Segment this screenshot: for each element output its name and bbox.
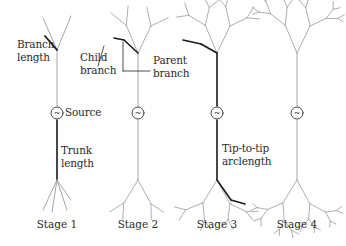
tip-to-tip-arclength-label: Tip-to-tip arclength	[222, 142, 271, 167]
child-branch-label: Child branch	[80, 51, 116, 76]
arclength-path-top	[201, 44, 217, 53]
parent-branch-highlight	[124, 40, 138, 53]
child-branch-highlight	[114, 38, 124, 40]
svg-text:~: ~	[294, 109, 301, 118]
svg-text:~: ~	[214, 109, 221, 118]
source-label: Source	[65, 106, 101, 119]
parent-branch-label: Parent branch	[153, 54, 189, 79]
branch-length-label: Branch length	[17, 38, 54, 63]
dendrite-growth-diagram: ~~~~	[0, 0, 346, 246]
svg-text:~: ~	[135, 109, 142, 118]
stage-1-label: Stage 1	[27, 218, 87, 230]
svg-text:~: ~	[54, 109, 61, 118]
trunk-length-label: Trunk length	[61, 144, 94, 169]
arclength-path-bottom	[217, 180, 231, 200]
stage-3-label: Stage 3	[187, 218, 247, 230]
stage-2-label: Stage 2	[108, 218, 168, 230]
stage-4-label: Stage 4	[267, 218, 327, 230]
